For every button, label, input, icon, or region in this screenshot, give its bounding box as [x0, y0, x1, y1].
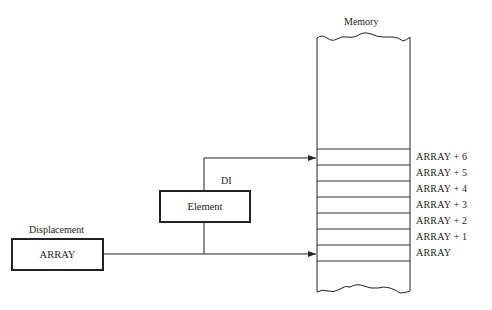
memory-cell-dividers — [317, 149, 410, 261]
memory-cell-label: ARRAY + 4 — [416, 183, 467, 195]
di-register-label: DI — [221, 175, 232, 187]
memory-cell-label: ARRAY + 2 — [416, 215, 467, 227]
memory-cell-label: ARRAY + 5 — [416, 167, 467, 179]
displacement-box-text: ARRAY — [40, 249, 76, 260]
displacement-label: Displacement — [29, 224, 84, 236]
memory-cell-label: ARRAY — [416, 247, 451, 259]
memory-cell-label: ARRAY + 3 — [416, 199, 467, 211]
memory-bottom-break — [317, 285, 410, 293]
displacement-box: ARRAY — [11, 238, 104, 271]
element-box-text: Element — [188, 201, 223, 212]
element-box: Element — [159, 190, 251, 223]
memory-cell-label: ARRAY + 1 — [416, 231, 467, 243]
memory-cell-label: ARRAY + 6 — [416, 151, 467, 163]
memory-title: Memory — [344, 16, 378, 28]
memory-top-break — [317, 33, 410, 41]
